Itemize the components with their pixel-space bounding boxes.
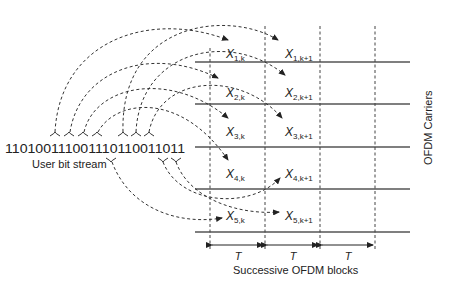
period-label-1: T <box>235 250 243 262</box>
arc-to-x5k <box>112 162 222 220</box>
bracket-2 <box>64 132 74 136</box>
arc-to-x1k <box>55 29 228 132</box>
arc-to-x3k <box>84 89 228 132</box>
bracket-3 <box>78 132 88 136</box>
carriers-label: OFDM Carriers <box>422 90 434 165</box>
blocks-label: Successive OFDM blocks <box>233 264 359 276</box>
bracket-8 <box>106 158 116 162</box>
symbol-x1k: X1,k <box>225 47 246 63</box>
bracket-7 <box>144 132 154 136</box>
symbol-x1k1: X1,k+1 <box>284 47 313 63</box>
symbol-x3k: X3,k <box>225 125 246 141</box>
period-label-2: T <box>290 250 298 262</box>
symbol-x2k1: X2,k+1 <box>284 86 313 102</box>
period-label-3: T <box>345 250 353 262</box>
symbol-x3k1: X3,k+1 <box>284 125 313 141</box>
bit-stream-label: User bit stream <box>32 158 107 170</box>
block-k1-symbols: X1,k+1 X2,k+1 X3,k+1 X4,k+1 X5,k+1 <box>284 47 313 225</box>
symbol-x2k: X2,k <box>225 86 246 102</box>
arc-to-x4k1 <box>163 162 280 199</box>
bracket-1 <box>50 132 60 136</box>
bracket-6 <box>131 132 141 136</box>
symbol-x5k: X5,k <box>225 209 246 225</box>
mapping-arcs <box>55 25 285 219</box>
arc-to-x1k1 <box>123 25 278 132</box>
bracket-9 <box>158 158 168 162</box>
bracket-10 <box>171 158 181 162</box>
bracket-5 <box>118 132 128 136</box>
symbol-x4k1: X4,k+1 <box>284 167 313 183</box>
symbol-x5k1: X5,k+1 <box>284 209 313 225</box>
symbol-x4k: X4,k <box>225 167 246 183</box>
ofdm-mapping-diagram: 110100111001110110011011 User bit stream… <box>0 0 453 291</box>
period-labels: T T T <box>235 250 353 262</box>
user-bit-stream: 110100111001110110011011 <box>5 141 185 156</box>
bracket-4 <box>92 132 102 136</box>
